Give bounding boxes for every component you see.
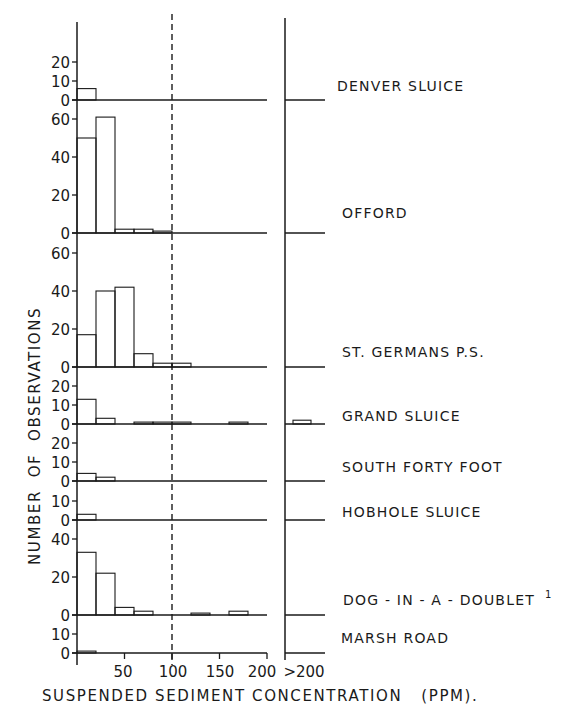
y-tick-labels: 0102002040600204060010200102001002040010: [51, 54, 70, 663]
y-tick-marsh-road-10: 10: [51, 626, 70, 644]
bar-st-germans-p-s-20: [96, 291, 115, 367]
bar-grand-sluice-0: [77, 399, 96, 424]
y-tick-south-forty-foot-0: 0: [60, 473, 70, 491]
y-tick-denver-sluice-10: 10: [51, 73, 70, 91]
y-tick-dog-in-a-doublet-20: 20: [51, 569, 70, 587]
histogram-bars: [77, 89, 311, 653]
y-tick-st-germans-p-s-0: 0: [60, 359, 70, 377]
bar-dog-in-a-doublet-40: [115, 607, 134, 615]
sediment-histogram-chart: 0102002040600204060010200102001002040010…: [0, 0, 564, 710]
station-label-st-germans: ST. GERMANS P.S.: [342, 344, 485, 360]
x-tick-150: 150: [206, 663, 235, 681]
bar-dog-in-a-doublet-20: [96, 573, 115, 615]
station-label-hobhole-sluice: HOBHOLE SLUICE: [342, 504, 482, 520]
y-tick-hobhole-sluice-0: 0: [60, 512, 70, 530]
y-axis-title: NUMBER OF OBSERVATIONS: [26, 307, 44, 565]
axes: [72, 14, 325, 665]
y-tick-dog-in-a-doublet-0: 0: [60, 607, 70, 625]
y-tick-st-germans-p-s-40: 40: [51, 283, 70, 301]
x-tick-over-200: >200: [283, 663, 324, 681]
y-tick-st-germans-p-s-60: 60: [51, 245, 70, 263]
bar-grand-sluice-20: [96, 418, 115, 424]
bar-st-germans-p-s-40: [115, 287, 134, 367]
y-tick-offord-60: 60: [51, 111, 70, 129]
y-tick-south-forty-foot-20: 20: [51, 435, 70, 453]
bar-offord-0: [77, 138, 96, 233]
y-tick-south-forty-foot-10: 10: [51, 454, 70, 472]
station-label-grand-sluice: GRAND SLUICE: [342, 408, 461, 424]
station-label-south-forty-foot: SOUTH FORTY FOOT: [342, 459, 503, 475]
station-label-marsh-road: MARSH ROAD: [341, 630, 449, 646]
x-axis-title: SUSPENDED SEDIMENT CONCENTRATION (PPM).: [42, 687, 478, 705]
y-tick-grand-sluice-0: 0: [60, 416, 70, 434]
bar-denver-sluice-0: [77, 89, 96, 100]
y-tick-denver-sluice-20: 20: [51, 54, 70, 72]
bar-dog-in-a-doublet-0: [77, 552, 96, 615]
station-label-offord: OFFORD: [342, 205, 408, 221]
bar-south-forty-foot-0: [77, 473, 96, 481]
bar-st-germans-p-s-60: [134, 354, 153, 367]
y-tick-grand-sluice-20: 20: [51, 378, 70, 396]
footnote-marker: 1: [545, 589, 553, 600]
station-label-denver-sluice: DENVER SLUICE: [337, 78, 464, 94]
x-tick-200: 200: [248, 663, 277, 681]
y-tick-grand-sluice-10: 10: [51, 397, 70, 415]
station-label-dog-in-a-doublet: DOG - IN - A - DOUBLET: [343, 592, 535, 608]
y-tick-st-germans-p-s-20: 20: [51, 321, 70, 339]
x-tick-100: 100: [159, 663, 188, 681]
y-tick-hobhole-sluice-10: 10: [51, 493, 70, 511]
bar-offord-20: [96, 117, 115, 233]
x-tick-50: 50: [113, 663, 132, 681]
bar-hobhole-sluice-0: [77, 514, 96, 520]
y-tick-dog-in-a-doublet-40: 40: [51, 531, 70, 549]
y-tick-offord-0: 0: [60, 225, 70, 243]
y-tick-offord-20: 20: [51, 187, 70, 205]
bar-st-germans-p-s-0: [77, 335, 96, 367]
y-tick-offord-40: 40: [51, 149, 70, 167]
y-tick-denver-sluice-0: 0: [60, 92, 70, 110]
y-tick-marsh-road-0: 0: [60, 645, 70, 663]
